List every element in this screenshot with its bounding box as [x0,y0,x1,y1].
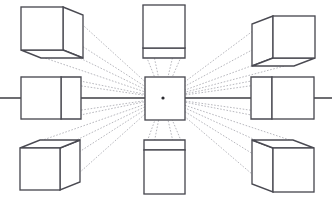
cube-front-face [21,7,63,50]
vanishing-point-dot [161,96,164,99]
cube-top-right [252,16,315,66]
cube-middle-right [251,77,314,119]
cube-top-center [143,5,185,58]
cube-center [145,77,185,120]
cube-middle-left [21,77,81,119]
cube-front-face [145,77,185,120]
perspective-canvas [0,0,332,204]
cube-right-face [63,7,83,58]
cube-front-face [273,148,314,192]
vanishing-point-group [161,96,164,99]
cube-front-face [21,77,61,119]
cube-front-face [143,5,185,48]
cube-top-face [144,140,185,150]
cube-right-face [61,77,81,119]
cubes-group [20,5,315,194]
cube-top-left [21,7,83,58]
perspective-diagram [0,0,332,204]
cube-bottom-center [144,140,185,194]
cube-left-face [252,140,273,192]
cube-front-face [20,148,60,190]
cube-front-face [272,77,314,119]
cube-front-face [144,150,185,194]
cube-bottom-left [20,140,80,190]
cube-front-face [273,16,315,58]
cube-bottom-face [143,48,185,58]
cube-bottom-right [252,140,314,192]
cube-left-face [251,77,272,119]
